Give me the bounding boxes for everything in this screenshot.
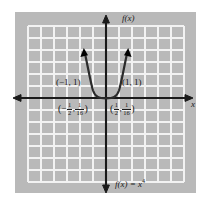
annotation-point-1-1: (1, 1) bbox=[122, 78, 142, 87]
function-equation-label: f(x) = x4 bbox=[115, 178, 145, 189]
y-axis-label: f(x) bbox=[122, 14, 135, 23]
minus-sign: − bbox=[61, 103, 66, 113]
quartic-curve-path bbox=[86, 56, 127, 98]
paren-open: ( bbox=[110, 103, 113, 114]
annotation-point-neg-half: (−12,116) bbox=[58, 102, 88, 117]
paren-close: ) bbox=[84, 103, 87, 114]
function-equation-text: f(x) = x bbox=[115, 179, 142, 189]
curve-arrow-right bbox=[124, 48, 132, 57]
fraction-one-half: 12 bbox=[67, 102, 72, 117]
x-axis-label: x bbox=[191, 100, 195, 109]
fraction-one-half: 12 bbox=[114, 102, 119, 117]
curve-arrow-left bbox=[80, 48, 88, 57]
fraction-one-sixteenth: 116 bbox=[75, 102, 84, 117]
function-curve bbox=[0, 0, 206, 201]
function-exponent: 4 bbox=[142, 178, 145, 184]
paren-close: ) bbox=[131, 103, 134, 114]
chart-figure: f(x) x (−1, 1) (1, 1) (−12,116) (12,116)… bbox=[0, 0, 206, 201]
fraction-one-sixteenth: 116 bbox=[122, 102, 131, 117]
annotation-point-neg1-1: (−1, 1) bbox=[56, 78, 81, 87]
annotation-point-pos-half: (12,116) bbox=[110, 102, 135, 117]
